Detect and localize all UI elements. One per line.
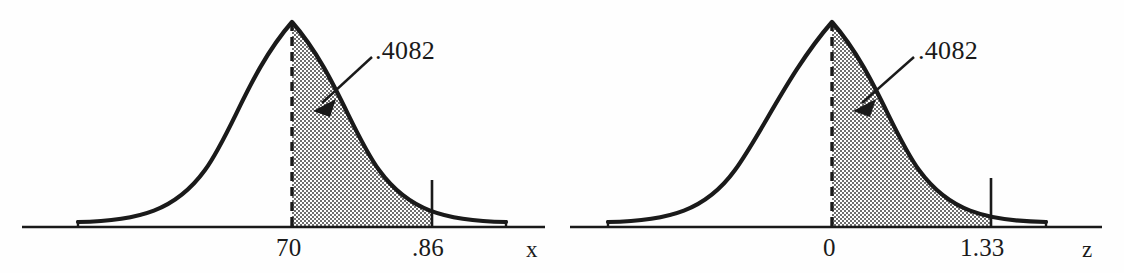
area-value-label: .4082 xyxy=(375,38,435,64)
shaded-area-region xyxy=(608,22,1046,227)
distribution-panel-z: .4082 0 1.33 z xyxy=(562,0,1124,273)
area-value-label: .4082 xyxy=(918,38,978,64)
axis-variable-label: x xyxy=(526,238,538,261)
distribution-panel-x: .4082 70 .86 x xyxy=(0,0,562,273)
cutoff-tick-label: .86 xyxy=(412,235,444,260)
normal-curve xyxy=(608,22,1046,222)
mean-tick-label: 0 xyxy=(823,235,836,260)
cutoff-tick-label: 1.33 xyxy=(960,235,1005,260)
normal-distribution-figure: .4082 70 .86 x xyxy=(0,0,1124,273)
mean-tick-label: 70 xyxy=(276,235,301,260)
axis-variable-label: z xyxy=(1082,238,1092,261)
